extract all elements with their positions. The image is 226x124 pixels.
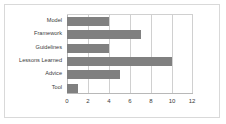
category-label: Guidelines: [36, 41, 62, 54]
x-tick-label: 12: [184, 96, 200, 106]
bar: [67, 57, 172, 66]
category-label: Lessons Learned: [19, 54, 62, 67]
x-tick-label: 8: [143, 96, 159, 106]
category-label: Model: [47, 14, 62, 27]
bar: [67, 44, 109, 53]
category-label: Advice: [45, 67, 62, 80]
category-label: Tool: [52, 81, 62, 94]
x-axis-tick-labels: 024681012: [67, 96, 193, 108]
bar: [67, 17, 109, 26]
bar: [67, 70, 120, 79]
x-tick-label: 10: [164, 96, 180, 106]
x-tick-label: 0: [59, 96, 75, 106]
category-label: Framework: [34, 27, 62, 40]
x-tick-label: 2: [80, 96, 96, 106]
bar-series: [67, 15, 193, 93]
plot-area: [67, 14, 193, 94]
x-tick-label: 6: [122, 96, 138, 106]
chart-figure: ModelFrameworkGuidelinesLessons LearnedA…: [4, 4, 220, 118]
x-tick-label: 4: [101, 96, 117, 106]
y-axis-category-labels: ModelFrameworkGuidelinesLessons LearnedA…: [5, 14, 65, 94]
bar: [67, 30, 141, 39]
bar: [67, 84, 78, 93]
